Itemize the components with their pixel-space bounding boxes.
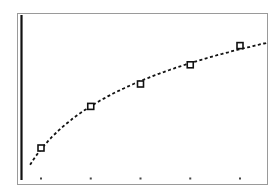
chart-plot	[0, 0, 278, 189]
x-tick	[189, 178, 191, 180]
data-point-marker	[138, 81, 144, 87]
x-tick	[239, 178, 241, 180]
x-tick	[40, 178, 42, 180]
data-point-marker	[88, 103, 94, 109]
x-tick	[90, 178, 92, 180]
data-point-marker	[38, 145, 44, 151]
x-tick	[140, 178, 142, 180]
plot-frame	[18, 14, 268, 185]
data-point-marker	[187, 62, 193, 68]
data-point-marker	[237, 43, 243, 49]
